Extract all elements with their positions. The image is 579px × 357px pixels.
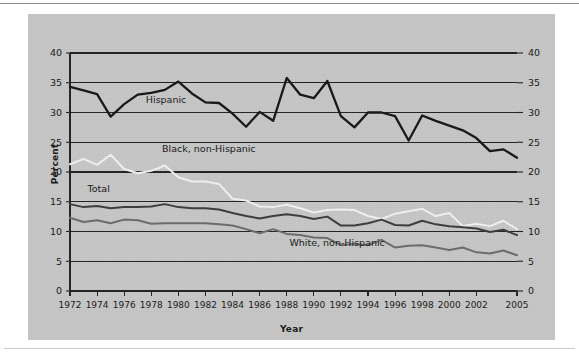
xtick-label-1992: 1992 — [329, 300, 352, 310]
xtick-label-1996: 1996 — [384, 300, 407, 310]
series-line-hispanic — [70, 78, 517, 158]
ytick-label-right-5: 5 — [528, 256, 534, 267]
y-axis-title: Percent — [50, 119, 60, 209]
top-divider-rule — [0, 3, 579, 4]
chart-panel: 0055101015152020252530303535404019721974… — [28, 14, 555, 340]
xtick-label-1974: 1974 — [86, 300, 109, 310]
ytick-label-right-10: 10 — [528, 226, 540, 237]
ytick-label-left-40: 40 — [50, 47, 62, 58]
xtick-label-1990: 1990 — [302, 300, 325, 310]
ytick-label-right-35: 35 — [528, 77, 540, 88]
xtick-label-1994: 1994 — [357, 300, 380, 310]
xtick-label-1998: 1998 — [411, 300, 434, 310]
ytick-label-right-40: 40 — [528, 47, 540, 58]
ytick-label-right-0: 0 — [528, 285, 534, 296]
ytick-label-right-20: 20 — [528, 166, 540, 177]
figure-container: 0055101015152020252530303535404019721974… — [0, 0, 579, 357]
ytick-label-right-15: 15 — [528, 196, 540, 207]
ytick-label-right-25: 25 — [528, 137, 540, 148]
series-label-hispanic: Hispanic — [146, 94, 186, 105]
ytick-label-left-5: 5 — [56, 256, 62, 267]
xtick-label-1986: 1986 — [248, 300, 271, 310]
footer-text-sliver — [6, 351, 566, 356]
xtick-label-2000: 2000 — [438, 300, 461, 310]
xtick-label-2002: 2002 — [465, 300, 488, 310]
ytick-label-left-0: 0 — [56, 285, 62, 296]
xtick-label-1980: 1980 — [167, 300, 190, 310]
xtick-label-1978: 1978 — [140, 300, 163, 310]
ytick-label-left-35: 35 — [50, 77, 62, 88]
ytick-label-left-30: 30 — [50, 107, 62, 118]
x-axis-title: Year — [28, 324, 555, 334]
series-label-white-non-hispanic: White, non-Hispanic — [289, 237, 384, 248]
xtick-label-1984: 1984 — [221, 300, 244, 310]
xtick-label-1982: 1982 — [194, 300, 217, 310]
xtick-label-1988: 1988 — [275, 300, 298, 310]
series-label-black-non-hispanic: Black, non-Hispanic — [162, 143, 256, 154]
xtick-label-2005: 2005 — [506, 300, 529, 310]
line-chart-plot: 0055101015152020252530303535404019721974… — [28, 14, 555, 340]
series-label-total: Total — [87, 183, 110, 194]
ytick-label-left-10: 10 — [50, 226, 62, 237]
ytick-label-right-30: 30 — [528, 107, 540, 118]
bottom-divider-rule — [4, 348, 575, 349]
xtick-label-1976: 1976 — [113, 300, 136, 310]
xtick-label-1972: 1972 — [59, 300, 82, 310]
series-line-black-non-hispanic — [70, 155, 517, 229]
